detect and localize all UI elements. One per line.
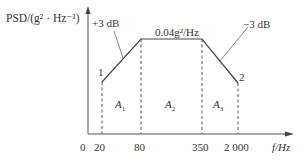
- y-axis-arrow-icon: [86, 6, 91, 14]
- x-axis-arrow-icon: [285, 132, 294, 137]
- region-a1-label: A1: [115, 99, 125, 113]
- minus3-label: −3 dB: [243, 19, 270, 30]
- region-a2-label: A2: [165, 99, 175, 113]
- plateau-label: 0.04g²/Hz: [155, 27, 199, 38]
- region-a3-label: A3: [213, 99, 223, 113]
- tick-350: 350: [192, 142, 209, 153]
- plus3-label: +3 dB: [92, 18, 119, 29]
- psd-profile: [102, 39, 238, 83]
- x-axis-label: f/Hz: [272, 142, 290, 153]
- leader-plus3: [114, 31, 123, 58]
- leader-minus3: [220, 27, 248, 61]
- tick-80: 80: [134, 142, 145, 153]
- point1-label: 1: [98, 67, 104, 78]
- tick-2000: 2 000: [224, 142, 249, 153]
- y-axis-label: PSD/(g² · Hz⁻¹): [6, 13, 80, 25]
- tick-0: 0: [80, 142, 86, 153]
- tick-20: 20: [94, 142, 105, 153]
- point2-label: 2: [239, 72, 245, 83]
